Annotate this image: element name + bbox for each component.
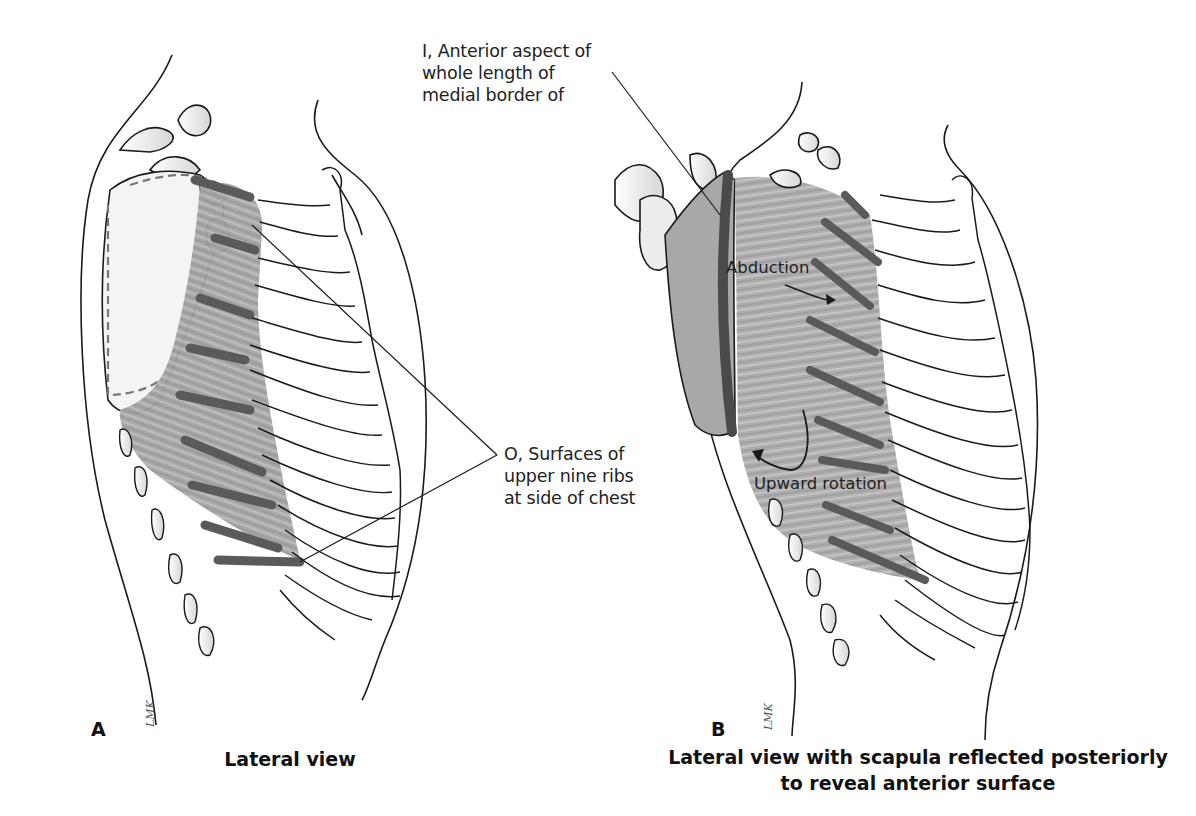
origin-label: O, Surfaces of upper nine ribs at side o… <box>504 443 635 509</box>
artist-signature-b: LMK <box>762 703 775 730</box>
origin-label-line3: at side of chest <box>504 487 635 509</box>
origin-label-line2: upper nine ribs <box>504 465 635 487</box>
caption-panel-b: Lateral view with scapula reflected post… <box>640 744 1196 796</box>
abduction-label: Abduction <box>726 258 809 277</box>
insertion-label-line2: whole length of <box>422 62 591 84</box>
upward-rotation-label: Upward rotation <box>754 474 887 493</box>
caption-panel-b-line1: Lateral view with scapula reflected post… <box>640 744 1196 770</box>
caption-panel-b-line2: to reveal anterior surface <box>640 770 1196 796</box>
ribs-b <box>872 195 1025 660</box>
insertion-label-line3: medial border of <box>422 84 591 106</box>
insertion-label: I, Anterior aspect of whole length of me… <box>422 40 591 106</box>
insertion-label-line1: I, Anterior aspect of <box>422 40 591 62</box>
panel-b-drawing <box>615 82 1038 740</box>
artist-signature-a: LMK <box>144 700 157 727</box>
ribs-a <box>250 200 400 640</box>
caption-panel-a: Lateral view <box>200 746 380 772</box>
panel-letter-b: B <box>711 718 725 740</box>
origin-label-line1: O, Surfaces of <box>504 443 635 465</box>
panel-a-drawing <box>81 55 426 725</box>
anatomical-illustration <box>0 0 1196 816</box>
panel-letter-a: A <box>91 718 106 740</box>
